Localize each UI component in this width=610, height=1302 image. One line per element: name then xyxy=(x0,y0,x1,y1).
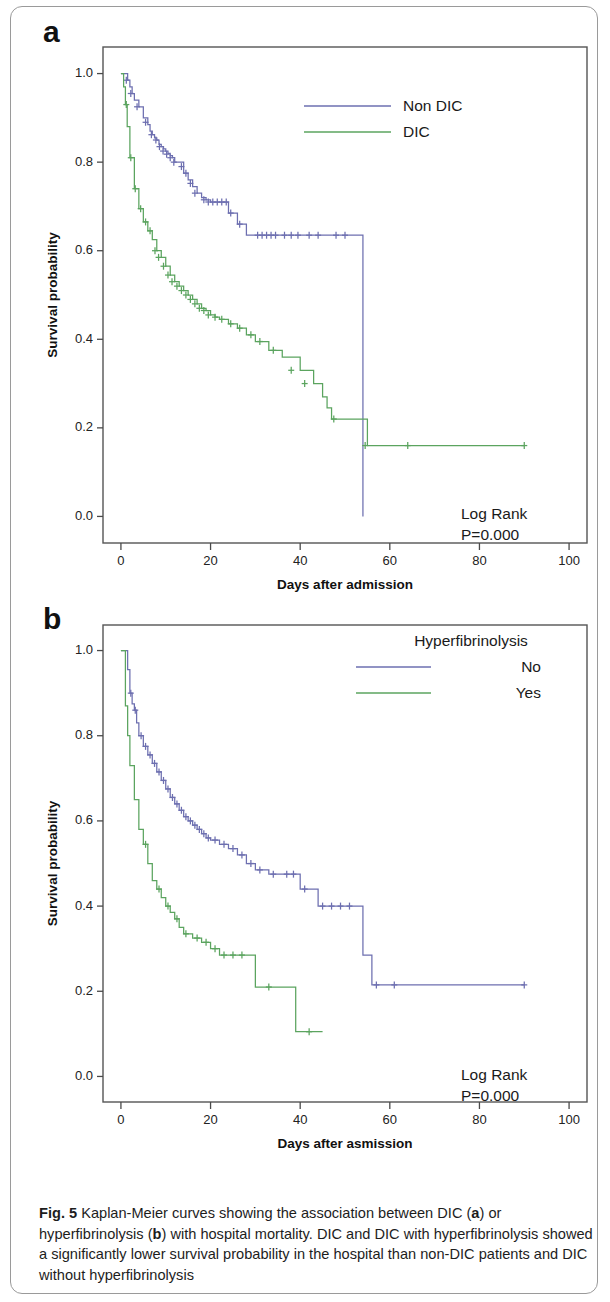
legend-label-dic: DIC xyxy=(403,123,430,140)
annotation-log-rank: Log Rank xyxy=(461,505,528,522)
x-tick-label: 100 xyxy=(558,553,580,568)
survival-curve-no xyxy=(121,651,524,985)
figure-caption: Fig. 5 Kaplan-Meier curves showing the a… xyxy=(39,1203,595,1286)
legend-title: Hyperfibrinolysis xyxy=(414,632,528,649)
y-tick-label: 0.8 xyxy=(75,154,93,169)
survival-curve-dic xyxy=(121,74,524,446)
kaplan-meier-chart-panel-b: 0.00.20.40.60.81.0020406080100Days after… xyxy=(11,590,599,1180)
x-tick-label: 60 xyxy=(383,553,397,568)
x-tick-label: 0 xyxy=(117,553,124,568)
x-tick-label: 40 xyxy=(293,1112,307,1127)
x-tick-label: 60 xyxy=(383,1112,397,1127)
x-axis-title: Days after asmission xyxy=(277,1136,412,1151)
chart-legend: Non DICDIC xyxy=(304,97,462,140)
legend-label-yes: Yes xyxy=(516,684,542,701)
legend-label-non-dic: Non DIC xyxy=(403,97,462,114)
y-axis-title: Survival probability xyxy=(45,800,60,926)
censor-marks-no xyxy=(128,690,527,989)
y-axis-title: Survival probability xyxy=(45,232,60,358)
y-tick-label: 0.2 xyxy=(75,983,93,998)
x-tick-label: 20 xyxy=(203,1112,217,1127)
y-tick-label: 0.2 xyxy=(75,419,93,434)
x-tick-label: 80 xyxy=(472,553,486,568)
annotation-log-rank: Log Rank xyxy=(461,1066,528,1083)
caption-part-1: Kaplan-Meier curves showing the associat… xyxy=(77,1205,471,1221)
x-tick-label: 20 xyxy=(203,553,217,568)
annotation-p-value: P=0.000 xyxy=(461,526,520,543)
y-tick-label: 0.0 xyxy=(75,508,93,523)
x-tick-label: 80 xyxy=(472,1112,486,1127)
y-tick-label: 0.4 xyxy=(75,331,93,346)
y-tick-label: 0.6 xyxy=(75,242,93,257)
y-tick-label: 0.6 xyxy=(75,812,93,827)
censor-marks-non-dic xyxy=(123,77,348,239)
caption-figure-number: Fig. 5 xyxy=(39,1205,77,1221)
plot-frame xyxy=(103,625,587,1102)
y-tick-label: 0.8 xyxy=(75,727,93,742)
censor-marks-yes xyxy=(143,841,313,1035)
survival-curve-yes xyxy=(121,651,323,1032)
x-tick-label: 0 xyxy=(117,1112,124,1127)
x-tick-label: 100 xyxy=(558,1112,580,1127)
y-tick-label: 1.0 xyxy=(75,642,93,657)
y-tick-label: 1.0 xyxy=(75,65,93,80)
kaplan-meier-chart-panel-a: 0.00.20.40.60.81.0020406080100Days after… xyxy=(11,7,599,597)
figure-outer-frame: a 0.00.20.40.60.81.0020406080100Days aft… xyxy=(10,6,598,1294)
plot-frame xyxy=(103,47,587,543)
chart-legend: HyperfibrinolysisNoYes xyxy=(356,632,541,701)
legend-label-no: No xyxy=(521,658,541,675)
annotation-p-value: P=0.000 xyxy=(461,1087,520,1104)
y-tick-label: 0.4 xyxy=(75,898,93,913)
x-tick-label: 40 xyxy=(293,553,307,568)
y-tick-label: 0.0 xyxy=(75,1068,93,1083)
